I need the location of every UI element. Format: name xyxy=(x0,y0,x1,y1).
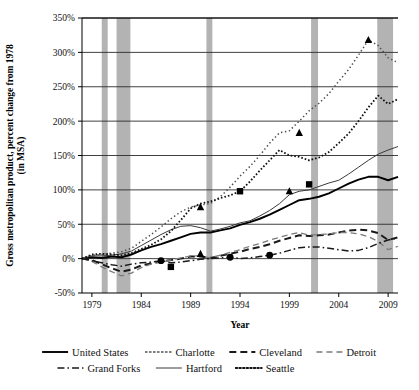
legend-label-seattle: Seattle xyxy=(266,363,295,374)
legend-item-cleveland[interactable]: Cleveland xyxy=(229,347,302,358)
y-axis-title-line2: (in MSA) xyxy=(16,137,27,175)
legend-item-hartford[interactable]: Hartford xyxy=(156,363,223,374)
y-tick-label-300: 300% xyxy=(53,48,75,58)
y-axis-ticks: -50%0%50%100%150%200%250%300%350% xyxy=(53,13,82,298)
legend-item-detroit[interactable]: Detroit xyxy=(316,347,376,358)
legend-item-charlotte[interactable]: Charlotte xyxy=(146,347,215,358)
y-tick-label-100: 100% xyxy=(53,185,75,195)
x-tick-label-1999: 1999 xyxy=(280,300,299,310)
x-axis-ticks: 1979198419891994199920042009 xyxy=(82,293,398,310)
legend-item-grand-forks[interactable]: Grand Forks xyxy=(57,363,140,374)
marker-seattle-2001 xyxy=(306,181,312,187)
x-tick-label-1989: 1989 xyxy=(181,300,200,310)
y-tick-label-250: 250% xyxy=(53,82,75,92)
gmp-line-chart: -50%0%50%100%150%200%250%300%350%1979198… xyxy=(0,0,419,390)
marker-seattle-1994 xyxy=(237,188,243,194)
y-tick-label--50: -50% xyxy=(54,288,75,298)
legend-label-united-states: United States xyxy=(72,347,128,358)
x-tick-label-2009: 2009 xyxy=(379,300,398,310)
y-tick-label-350: 350% xyxy=(53,13,75,23)
legend-item-seattle[interactable]: Seattle xyxy=(236,363,295,374)
marker-grand-forks-1993 xyxy=(227,254,234,261)
legend-label-grand-forks: Grand Forks xyxy=(87,363,140,374)
marker-grand-forks-1986 xyxy=(158,257,165,264)
y-axis-title: Gross metropolitan product, percent chan… xyxy=(5,44,27,267)
x-tick-label-2004: 2004 xyxy=(329,300,348,310)
marker-grand-forks-1997 xyxy=(266,252,273,259)
legend-label-charlotte: Charlotte xyxy=(176,347,215,358)
x-tick-label-1994: 1994 xyxy=(231,300,250,310)
marker-seattle-1987 xyxy=(168,264,174,270)
legend: United StatesCharlotteClevelandDetroitGr… xyxy=(42,347,376,374)
y-axis-title-line1: Gross metropolitan product, percent chan… xyxy=(5,44,15,267)
y-tick-label-0: 0% xyxy=(62,254,75,264)
legend-label-hartford: Hartford xyxy=(186,363,223,374)
x-tick-label-1984: 1984 xyxy=(132,300,151,310)
y-tick-label-50: 50% xyxy=(58,220,76,230)
legend-item-united-states[interactable]: United States xyxy=(42,347,128,358)
y-tick-label-150: 150% xyxy=(53,151,75,161)
x-axis-title: Year xyxy=(231,320,251,330)
x-tick-label-1979: 1979 xyxy=(82,300,101,310)
chart-container: -50%0%50%100%150%200%250%300%350%1979198… xyxy=(0,0,419,390)
y-tick-label-200: 200% xyxy=(53,117,75,127)
legend-label-detroit: Detroit xyxy=(346,347,376,358)
legend-label-cleveland: Cleveland xyxy=(259,347,302,358)
